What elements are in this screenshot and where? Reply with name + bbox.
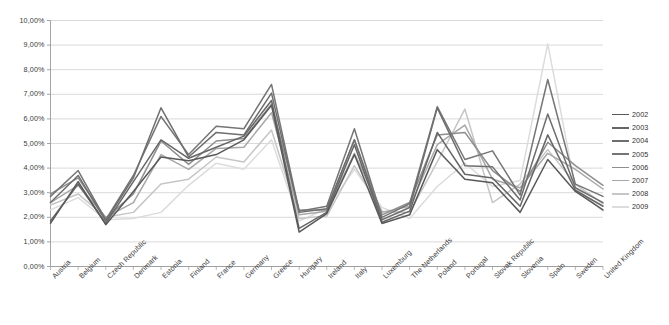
legend-item-label: 2005 <box>632 150 648 159</box>
legend-item-label: 2003 <box>632 123 648 132</box>
y-axis-tick-label: 0,00% <box>0 262 45 271</box>
y-axis-tick-label: 3,00% <box>0 188 45 197</box>
legend-item-2002[interactable]: 2002 <box>612 108 648 121</box>
legend-color-swatch <box>612 153 629 155</box>
y-axis-tick-label: 7,00% <box>0 89 45 98</box>
data-series-group <box>51 44 604 232</box>
y-axis-tick-label: 5,00% <box>0 139 45 148</box>
legend-color-swatch <box>612 140 629 142</box>
legend-color-swatch <box>612 206 629 208</box>
legend-item-2005[interactable]: 2005 <box>612 148 648 161</box>
legend-item-2009[interactable]: 2009 <box>612 200 648 213</box>
legend-item-label: 2002 <box>632 110 648 119</box>
y-axis-tick-label: 2,00% <box>0 212 45 221</box>
legend-item-label: 2006 <box>632 163 648 172</box>
y-axis-tick-label: 6,00% <box>0 114 45 123</box>
legend-item-label: 2004 <box>632 136 648 145</box>
series-line-2007 <box>51 113 604 218</box>
legend-item-2006[interactable]: 2006 <box>612 161 648 174</box>
legend-item-2004[interactable]: 2004 <box>612 134 648 147</box>
y-axis-tick-label: 1,00% <box>0 237 45 246</box>
chart-legend: 20022003200420052006200720082009 <box>612 108 648 214</box>
y-axis-tick-label: 4,00% <box>0 163 45 172</box>
legend-item-label: 2008 <box>632 189 648 198</box>
legend-color-swatch <box>612 180 629 182</box>
legend-color-swatch <box>612 114 629 116</box>
y-axis-tick-label: 8,00% <box>0 65 45 74</box>
x-tick-marks <box>51 267 604 271</box>
legend-item-2008[interactable]: 2008 <box>612 187 648 200</box>
legend-item-2007[interactable]: 2007 <box>612 174 648 187</box>
legend-color-swatch <box>612 167 629 169</box>
legend-item-label: 2007 <box>632 176 648 185</box>
legend-item-2003[interactable]: 2003 <box>612 121 648 134</box>
y-axis-tick-label: 9,00% <box>0 40 45 49</box>
y-axis-tick-label: 10,00% <box>0 16 45 25</box>
line-chart: 0,00%1,00%2,00%3,00%4,00%5,00%6,00%7,00%… <box>0 0 669 325</box>
legend-color-swatch <box>612 127 629 129</box>
legend-color-swatch <box>612 193 629 195</box>
gridlines <box>51 21 604 267</box>
legend-item-label: 2009 <box>632 202 648 211</box>
